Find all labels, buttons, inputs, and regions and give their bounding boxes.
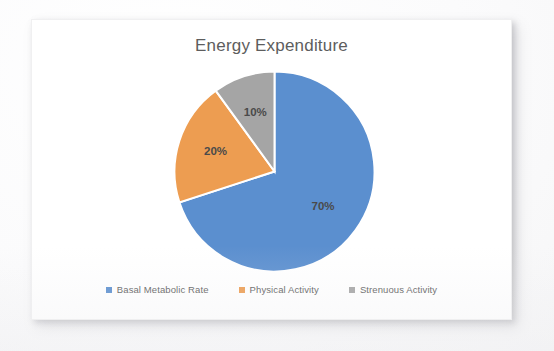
legend-item[interactable]: Basal Metabolic Rate	[106, 284, 209, 295]
chart-card: Energy Expenditure 70%20%10% Basal Metab…	[31, 19, 512, 320]
pie-slice-label: 20%	[204, 145, 227, 157]
legend-swatch-icon	[239, 287, 245, 293]
legend-label: Strenuous Activity	[360, 284, 437, 295]
legend-item[interactable]: Physical Activity	[239, 284, 319, 295]
legend-label: Physical Activity	[250, 284, 319, 295]
chart-legend: Basal Metabolic RatePhysical ActivityStr…	[32, 284, 511, 295]
screenshot-root: Energy Expenditure 70%20%10% Basal Metab…	[0, 0, 554, 351]
chart-title: Energy Expenditure	[32, 36, 511, 56]
legend-swatch-icon	[349, 287, 355, 293]
pie-chart: 70%20%10%	[173, 70, 376, 273]
plot-area: 70%20%10%	[32, 56, 511, 278]
legend-swatch-icon	[106, 287, 112, 293]
pie-slice-label: 10%	[244, 106, 267, 118]
legend-item[interactable]: Strenuous Activity	[349, 284, 437, 295]
legend-label: Basal Metabolic Rate	[117, 284, 209, 295]
pie-slice-label: 70%	[311, 200, 334, 212]
pie-svg: 70%20%10%	[173, 70, 376, 273]
